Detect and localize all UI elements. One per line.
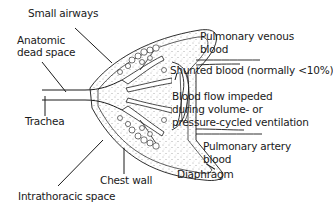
label-blood-flow-2: during volume- or xyxy=(172,104,263,115)
label-pulmonary-artery-2: blood xyxy=(203,154,231,165)
label-pulmonary-artery-1: Pulmonary artery xyxy=(203,141,291,152)
label-trachea: Trachea xyxy=(25,116,65,127)
label-diaphragm: Diaphragm xyxy=(177,169,234,180)
label-blood-flow-1: Blood flow impeded xyxy=(172,91,272,102)
label-pulmonary-venous-1: Pulmonary venous xyxy=(200,31,294,42)
label-anatomic-dead-space-1: Anatomic xyxy=(17,35,65,46)
label-pulmonary-venous-2: blood xyxy=(200,44,228,55)
label-shunted-blood: Shunted blood (normally <10%) xyxy=(170,65,333,76)
label-blood-flow-3: pressure-cycled ventilation xyxy=(172,117,309,128)
label-anatomic-dead-space-2: dead space xyxy=(17,47,75,58)
label-small-airways: Small airways xyxy=(28,8,98,19)
label-intrathoracic-space: Intrathoracic space xyxy=(18,191,115,202)
label-chest-wall: Chest wall xyxy=(100,175,152,186)
